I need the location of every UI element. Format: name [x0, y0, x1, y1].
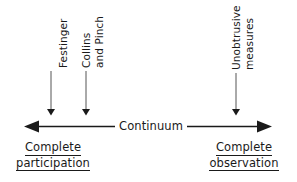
endpoint-label-line: participation — [2, 156, 104, 172]
marker-label-unobtrusive-measures: Unobtrusive measures — [230, 5, 255, 70]
marker-label-line: Collins — [80, 16, 93, 68]
endpoint-label-line: observation — [192, 156, 296, 172]
endpoint-label-left: Complete participation — [2, 140, 104, 171]
marker-label-line: measures — [243, 5, 256, 70]
endpoint-label-line: Complete — [192, 140, 296, 156]
marker-label-collins-and-pinch: Collins and Pinch — [80, 16, 105, 68]
continuum-diagram: Festinger Collins and Pinch Unobtrusive … — [0, 0, 297, 182]
endpoint-label-line: Complete — [2, 140, 104, 156]
marker-label-festinger: Festinger — [57, 19, 70, 68]
marker-label-line: Festinger — [57, 19, 70, 68]
marker-label-line: Unobtrusive — [230, 5, 243, 70]
continuum-axis-label: Continuum — [115, 119, 187, 133]
left-arrowhead-icon — [24, 121, 39, 133]
marker-label-line: and Pinch — [93, 16, 106, 68]
right-arrowhead-icon — [257, 121, 272, 133]
endpoint-label-right: Complete observation — [192, 140, 296, 171]
